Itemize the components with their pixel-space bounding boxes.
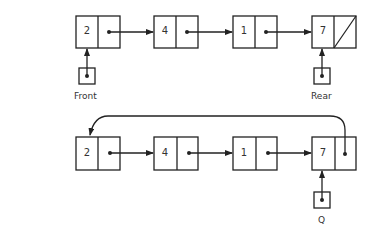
bottom-node-1-value: 2 xyxy=(76,147,98,158)
bottom-node-2-value: 4 xyxy=(154,147,176,158)
bottom-node-4-value: 7 xyxy=(312,147,334,158)
front-label: Front xyxy=(74,91,97,101)
top-node-3-value: 1 xyxy=(233,25,255,36)
bottom-node-3-value: 1 xyxy=(233,147,255,158)
top-node-4-value: 7 xyxy=(312,25,334,36)
top-node-2-value: 4 xyxy=(154,25,176,36)
null-pointer-slash xyxy=(334,16,356,48)
q-label: Q xyxy=(318,215,325,225)
rear-label: Rear xyxy=(311,91,332,101)
top-node-1-value: 2 xyxy=(76,25,98,36)
circular-link xyxy=(90,116,345,154)
